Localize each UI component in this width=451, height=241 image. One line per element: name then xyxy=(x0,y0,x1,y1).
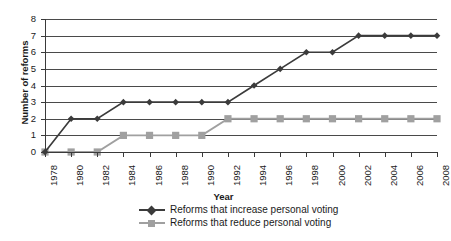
data-series-layer xyxy=(45,19,437,152)
x-tick-label: 2004 xyxy=(389,156,399,186)
data-point-marker xyxy=(277,115,284,122)
y-tick-label: 0 xyxy=(0,147,36,157)
x-tick-label: 1980 xyxy=(75,156,85,186)
x-tick-mark xyxy=(359,153,360,157)
y-tick-label: 1 xyxy=(0,130,36,140)
x-tick-label: 1982 xyxy=(101,156,111,186)
x-tick-label: 1996 xyxy=(284,156,294,186)
y-tick-mark xyxy=(41,86,45,87)
y-tick-mark xyxy=(41,135,45,136)
y-tick-label: 3 xyxy=(0,97,36,107)
x-tick-label: 1992 xyxy=(232,156,242,186)
legend-diamond-marker-icon xyxy=(147,206,157,216)
y-tick-mark xyxy=(41,36,45,37)
data-point-marker xyxy=(146,132,153,139)
x-tick-label: 1998 xyxy=(310,156,320,186)
legend-label: Reforms that increase personal voting xyxy=(170,204,338,215)
series-increase xyxy=(42,32,441,155)
legend-item[interactable]: Reforms that reduce personal voting xyxy=(0,216,447,229)
data-point-marker xyxy=(408,32,415,39)
plot-area xyxy=(45,19,437,152)
x-tick-mark xyxy=(306,153,307,157)
x-tick-mark xyxy=(150,153,151,157)
x-tick-label: 2008 xyxy=(441,156,451,186)
x-tick-label: 2000 xyxy=(337,156,347,186)
y-tick-mark xyxy=(41,102,45,103)
y-tick-label: 2 xyxy=(0,114,36,124)
x-tick-mark xyxy=(385,153,386,157)
data-point-marker xyxy=(303,115,310,122)
x-tick-mark xyxy=(437,153,438,157)
data-point-marker xyxy=(146,99,153,106)
legend-square-marker-icon xyxy=(148,220,155,227)
x-axis-line xyxy=(45,152,438,153)
data-point-marker xyxy=(198,132,205,139)
x-tick-label: 1988 xyxy=(180,156,190,186)
y-tick-label: 4 xyxy=(0,81,36,91)
y-tick-mark xyxy=(41,119,45,120)
x-tick-mark xyxy=(97,153,98,157)
x-tick-label: 2002 xyxy=(363,156,373,186)
series-reduce xyxy=(41,115,440,155)
x-tick-mark xyxy=(45,153,46,157)
x-tick-mark xyxy=(254,153,255,157)
x-tick-label: 1990 xyxy=(206,156,216,186)
data-point-marker xyxy=(434,32,441,39)
y-tick-label: 7 xyxy=(0,31,36,41)
x-tick-mark xyxy=(202,153,203,157)
x-tick-mark xyxy=(280,153,281,157)
x-tick-mark xyxy=(228,153,229,157)
legend-label: Reforms that reduce personal voting xyxy=(170,217,331,228)
data-point-marker xyxy=(433,115,440,122)
data-point-marker xyxy=(407,115,414,122)
series-line xyxy=(45,119,437,152)
data-point-marker xyxy=(199,99,206,106)
x-tick-label: 2006 xyxy=(415,156,425,186)
y-axis-line xyxy=(45,19,46,153)
legend-swatch xyxy=(139,217,165,228)
y-tick-label: 5 xyxy=(0,64,36,74)
y-tick-mark xyxy=(41,69,45,70)
data-point-marker xyxy=(120,132,127,139)
y-tick-mark xyxy=(41,52,45,53)
x-tick-label: 1986 xyxy=(154,156,164,186)
chart-legend: Reforms that increase personal votingRef… xyxy=(0,203,447,229)
x-tick-mark xyxy=(176,153,177,157)
data-point-marker xyxy=(355,115,362,122)
x-tick-mark xyxy=(411,153,412,157)
x-tick-label: 1978 xyxy=(49,156,59,186)
x-tick-label: 1984 xyxy=(127,156,137,186)
series-line xyxy=(45,36,437,152)
x-axis-title: Year xyxy=(0,191,447,202)
x-tick-mark xyxy=(333,153,334,157)
data-point-marker xyxy=(381,115,388,122)
x-tick-mark xyxy=(71,153,72,157)
x-tick-mark xyxy=(123,153,124,157)
data-point-marker xyxy=(172,132,179,139)
data-point-marker xyxy=(381,32,388,39)
data-point-marker xyxy=(224,115,231,122)
y-tick-label: 6 xyxy=(0,47,36,57)
y-tick-mark xyxy=(41,152,45,153)
legend-item[interactable]: Reforms that increase personal voting xyxy=(0,203,447,216)
data-point-marker xyxy=(250,115,257,122)
legend-swatch xyxy=(139,204,165,215)
x-tick-label: 1994 xyxy=(258,156,268,186)
y-tick-mark xyxy=(41,19,45,20)
data-point-marker xyxy=(172,99,179,106)
data-point-marker xyxy=(329,115,336,122)
y-tick-label: 8 xyxy=(0,14,36,24)
